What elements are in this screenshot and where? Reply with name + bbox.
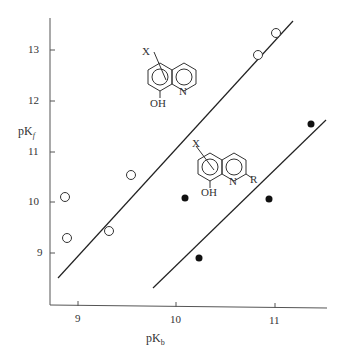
y-ticks <box>50 50 55 253</box>
substituent-r-label: R <box>250 173 257 185</box>
x-tick-label: 10 <box>170 313 181 325</box>
y-tick-label: 12 <box>28 94 39 106</box>
hydroxyl-label: OH <box>150 97 166 109</box>
y-tick-label: 9 <box>37 246 43 258</box>
structure-8-hydroxyquinoline <box>148 52 196 98</box>
substituent-x-label: X <box>192 137 200 149</box>
x-tick-label: 11 <box>269 314 280 326</box>
y-tick-label: 13 <box>28 43 39 55</box>
nitrogen-label: N <box>229 175 237 187</box>
substituent-x-label: X <box>142 45 150 57</box>
structure-2-r-8-hydroxyquinoline <box>196 146 252 188</box>
series-open-circles <box>61 29 281 243</box>
y-tick-label: 10 <box>28 195 39 207</box>
x-axis-title: pKb <box>146 331 165 347</box>
x-tick-label: 9 <box>75 312 81 324</box>
nitrogen-label: N <box>179 85 187 97</box>
hydroxyl-label: OH <box>201 186 217 198</box>
y-axis-title: pKf <box>18 124 35 140</box>
y-tick-label: 11 <box>28 145 39 157</box>
chart-figure: 13 12 11 10 9 9 10 11 pKf pKb X OH N X O… <box>0 0 344 356</box>
scatter-plot <box>0 0 344 356</box>
x-axis <box>50 305 327 308</box>
